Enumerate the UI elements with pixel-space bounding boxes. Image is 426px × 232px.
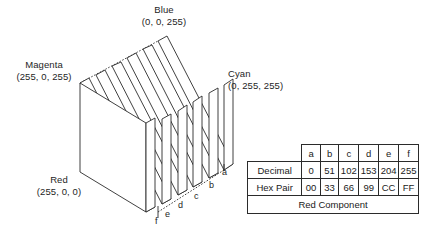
label-red-name: Red xyxy=(25,174,93,186)
slice-letter-a: a xyxy=(222,168,227,177)
table-cell-decimal-f: 255 xyxy=(399,162,419,179)
red-component-table: a b c d e f Decimal 0 51 102 153 204 255 xyxy=(247,144,419,214)
table-col-head-d: d xyxy=(359,145,379,162)
table-cell-hex-f: FF xyxy=(399,179,419,196)
table-corner-cell xyxy=(248,145,302,162)
table-col-head-f: f xyxy=(399,145,419,162)
slice-letter-c: c xyxy=(194,192,199,201)
table-header-row: a b c d e f xyxy=(248,145,419,162)
label-cyan-triple: (0, 255, 255) xyxy=(228,80,308,92)
table-row: Hex Pair 00 33 66 99 CC FF xyxy=(248,179,419,196)
table-cell-hex-e: CC xyxy=(379,179,399,196)
label-magenta-name: Magenta xyxy=(3,59,85,71)
label-magenta-triple: (255, 0, 255) xyxy=(3,71,85,83)
label-red: Red (255, 0, 0) xyxy=(25,174,93,197)
label-blue-name: Blue xyxy=(131,4,197,16)
label-magenta: Magenta (255, 0, 255) xyxy=(3,59,85,82)
table-cell-decimal-e: 204 xyxy=(379,162,399,179)
table-cell-decimal-a: 0 xyxy=(302,162,321,179)
table-cell-decimal-c: 102 xyxy=(339,162,359,179)
label-red-triple: (255, 0, 0) xyxy=(25,186,93,198)
table-footer-row: Red Component xyxy=(248,196,419,214)
slice-letter-b: b xyxy=(209,181,214,190)
table-col-head-b: b xyxy=(320,145,339,162)
slice-letter-e: e xyxy=(165,210,170,219)
table-cell-decimal-d: 153 xyxy=(359,162,379,179)
table-col-head-a: a xyxy=(302,145,321,162)
table-row-label-decimal: Decimal xyxy=(248,162,302,179)
table-cell-decimal-b: 51 xyxy=(320,162,339,179)
slice-letter-f: f xyxy=(155,217,158,226)
label-cyan-name: Cyan xyxy=(228,68,308,80)
table-cell-hex-a: 00 xyxy=(302,179,321,196)
table-cell-hex-d: 99 xyxy=(359,179,379,196)
label-blue: Blue (0, 0, 255) xyxy=(131,4,197,27)
table-col-head-c: c xyxy=(339,145,359,162)
table-row-label-hex-pair: Hex Pair xyxy=(248,179,302,196)
figure-root: Blue (0, 0, 255) Magenta (255, 0, 255) C… xyxy=(0,0,426,232)
table-cell-hex-c: 66 xyxy=(339,179,359,196)
slice-letter-d: d xyxy=(178,201,183,210)
table-col-head-e: e xyxy=(379,145,399,162)
label-blue-triple: (0, 0, 255) xyxy=(131,16,197,28)
label-cyan: Cyan (0, 255, 255) xyxy=(228,68,308,91)
red-component-table-wrap: a b c d e f Decimal 0 51 102 153 204 255 xyxy=(247,144,419,214)
table-row: Decimal 0 51 102 153 204 255 xyxy=(248,162,419,179)
table-footer-label: Red Component xyxy=(248,196,419,214)
table-cell-hex-b: 33 xyxy=(320,179,339,196)
